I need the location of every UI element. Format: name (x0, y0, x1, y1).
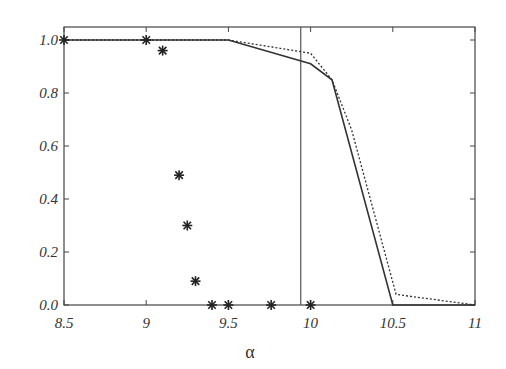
asterisk-marker (207, 300, 217, 310)
tick-labels: 8.599.51010.5110.00.20.40.60.81.0 (39, 32, 482, 331)
plot-frame (64, 27, 475, 305)
x-tick-label: 10 (303, 315, 319, 331)
asterisk-marker (182, 221, 192, 231)
y-tick-label: 0.2 (39, 244, 58, 260)
y-tick-label: 1.0 (39, 32, 58, 48)
y-tick-label: 0.8 (39, 85, 58, 101)
x-tick-label: 8.5 (55, 315, 74, 331)
asterisk-marker (174, 170, 184, 180)
asterisk-marker (158, 46, 168, 56)
asterisk-marker (306, 300, 316, 310)
data-series (59, 35, 475, 310)
asterisk-marker (191, 276, 201, 286)
dotted-line-series (64, 40, 475, 305)
y-tick-label: 0.0 (39, 297, 58, 313)
asterisk-marker (266, 300, 276, 310)
y-tick-label: 0.6 (39, 138, 58, 154)
asterisk-marker (59, 35, 69, 45)
axis-ticks (64, 27, 475, 305)
chart: 8.599.51010.5110.00.20.40.60.81.0 α (0, 0, 506, 369)
x-axis-label: α (245, 342, 255, 362)
plot-border (64, 27, 475, 305)
y-tick-label: 0.4 (39, 191, 58, 207)
solid-line-series (64, 40, 475, 305)
x-tick-label: 9 (142, 315, 150, 331)
x-tick-label: 9.5 (219, 315, 238, 331)
asterisk-marker (141, 35, 151, 45)
x-tick-label: 10.5 (380, 315, 407, 331)
x-tick-label: 11 (468, 315, 482, 331)
asterisk-marker (223, 300, 233, 310)
